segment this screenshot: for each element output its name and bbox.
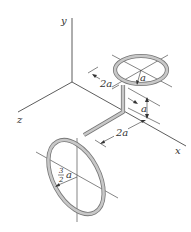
dim-2a-upper-label: 2a	[99, 78, 112, 89]
dim-a-label: a	[141, 103, 147, 114]
rod-ring-diagram: y z x 2a a a 2a 3 2 a	[0, 0, 191, 232]
arrow-head	[133, 100, 138, 104]
dim-2a-lower-label: 2a	[115, 127, 128, 138]
bottom-ring-radius-var: a	[66, 169, 72, 180]
dim-2a-ext-left	[88, 67, 98, 73]
arrow-head	[100, 140, 105, 144]
x-axis	[122, 110, 186, 146]
z-axis	[18, 82, 72, 112]
dim-2a-ext-right	[112, 85, 119, 89]
top-ring-radius-label: a	[140, 72, 146, 83]
bottom-ring-radius-num: 3	[59, 167, 64, 175]
x-axis-label: x	[175, 145, 181, 156]
z-axis-label: z	[16, 114, 23, 125]
bottom-ring-fill	[37, 131, 115, 223]
y-axis-label: y	[60, 15, 67, 26]
arrow-head	[92, 74, 97, 78]
bottom-ring-radius-den: 2	[58, 176, 64, 184]
x-axis-segment	[72, 82, 122, 110]
